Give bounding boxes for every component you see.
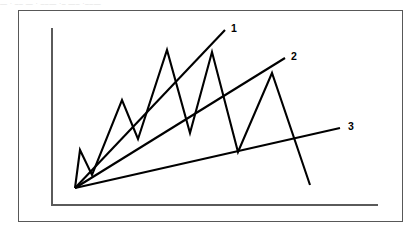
figure-page: — · –– — · ––— ·– —– ·––— 1 2 3 — [0, 0, 420, 237]
page-top-text-fragment: — · –– — · ––— ·– —– ·––— — [0, 0, 420, 8]
figure-border — [18, 10, 403, 222]
